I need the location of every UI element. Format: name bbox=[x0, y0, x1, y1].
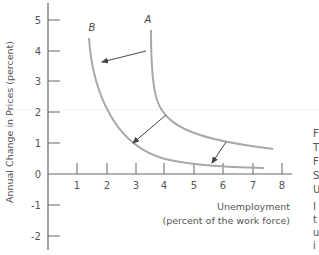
y-tick-label: 3 bbox=[35, 76, 41, 87]
y-tick-label: 0 bbox=[35, 169, 41, 180]
x-axis-title-line1: Unemployment bbox=[217, 201, 290, 212]
y-tick-label: -1 bbox=[31, 200, 41, 211]
y-tick-label: -2 bbox=[31, 231, 41, 242]
y-ticks bbox=[48, 20, 60, 236]
edge-fragment: F bbox=[313, 127, 319, 140]
x-tick-label: 1 bbox=[74, 180, 80, 191]
curve-a-label: A bbox=[144, 14, 152, 25]
edge-fragment: U bbox=[313, 183, 319, 196]
x-tick-label: 8 bbox=[279, 180, 285, 191]
y-tick-labels: 5 4 3 2 1 0 -1 -2 bbox=[31, 15, 41, 242]
curve-a bbox=[151, 30, 273, 149]
y-axis-title: Annual Change in Prices (percent) bbox=[4, 41, 15, 203]
x-tick-label: 5 bbox=[191, 180, 197, 191]
x-tick-label: 3 bbox=[133, 180, 139, 191]
edge-fragment: T bbox=[313, 141, 319, 154]
edge-fragment: F bbox=[313, 155, 319, 168]
x-tick-label: 7 bbox=[250, 180, 256, 191]
x-axis-title-line2: (percent of the work force) bbox=[162, 215, 290, 226]
y-tick-label: 1 bbox=[35, 138, 41, 149]
y-tick-label: 2 bbox=[35, 107, 41, 118]
phillips-curve-chart: 5 4 3 2 1 0 -1 -2 1 2 3 4 5 6 7 8 A B An… bbox=[0, 0, 319, 255]
x-tick-labels: 1 2 3 4 5 6 7 8 bbox=[74, 180, 285, 191]
shift-arrow-lower bbox=[212, 142, 226, 163]
y-tick-label: 4 bbox=[35, 46, 41, 57]
x-tick-label: 4 bbox=[161, 180, 167, 191]
edge-fragment: I bbox=[313, 200, 316, 213]
curve-b-label: B bbox=[89, 22, 96, 33]
curve-b bbox=[89, 38, 264, 168]
x-tick-label: 6 bbox=[220, 180, 226, 191]
edge-fragment: i bbox=[313, 239, 316, 252]
edge-fragment: t bbox=[313, 213, 317, 226]
x-tick-label: 2 bbox=[104, 180, 110, 191]
y-tick-label: 5 bbox=[35, 15, 41, 26]
shift-arrow-upper bbox=[102, 51, 146, 62]
edge-fragment: u bbox=[313, 226, 319, 239]
shift-arrow-middle bbox=[133, 115, 166, 143]
edge-fragment: S bbox=[313, 169, 319, 182]
